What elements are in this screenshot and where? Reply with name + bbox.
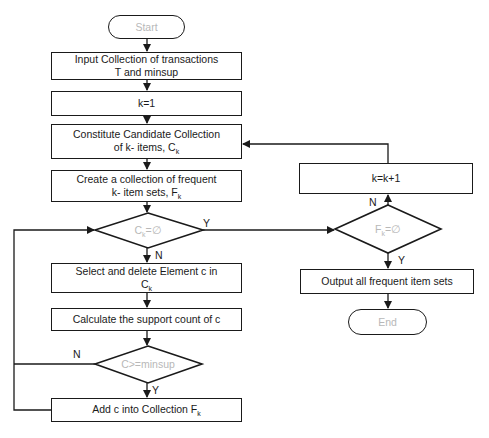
- init-k-process: k=1: [51, 91, 242, 116]
- end-terminal: End: [348, 309, 427, 335]
- calc-process: Calculate the support count of c: [51, 308, 242, 331]
- create-line2: k- item sets, F: [112, 186, 178, 198]
- create-line1: Create a collection of frequent: [76, 173, 216, 186]
- select-process: Select and delete Element c in Ck: [51, 263, 242, 293]
- init-k-label: k=1: [138, 97, 155, 110]
- create-process: Create a collection of frequent k- item …: [51, 170, 242, 202]
- fk-empty-text: Fk=∅: [375, 223, 401, 235]
- ck-empty-no-label: N: [155, 249, 163, 261]
- output-label: Output all frequent item sets: [321, 275, 452, 288]
- create-sub: k: [178, 193, 182, 200]
- constitute-sub: k: [176, 148, 180, 155]
- minsup-no-label: N: [73, 348, 81, 360]
- select-line1: Select and delete Element c in: [76, 265, 218, 278]
- fk-empty-no-label: N: [369, 196, 377, 208]
- input-line2: T and minsup: [115, 66, 178, 79]
- constitute-process: Constitute Candidate Collection of k- it…: [51, 124, 242, 159]
- ck-empty-text: Ck=∅: [134, 224, 161, 236]
- inc-k-process: k=k+1: [299, 163, 473, 194]
- constitute-line1: Constitute Candidate Collection: [73, 128, 220, 141]
- flowchart-canvas: Start Input Collection of transactions T…: [0, 0, 489, 438]
- end-label: End: [378, 316, 397, 328]
- start-label: Start: [135, 21, 157, 33]
- calc-label: Calculate the support count of c: [73, 313, 221, 326]
- ck-empty-yes-label: Y: [203, 217, 210, 229]
- select-line2: C: [141, 278, 149, 290]
- inc-k-label: k=k+1: [372, 172, 401, 185]
- start-terminal: Start: [108, 15, 185, 39]
- add-sub: k: [197, 410, 201, 417]
- fk-empty-yes-label: Y: [398, 254, 405, 266]
- add-label: Add c into Collection F: [92, 403, 197, 415]
- input-line1: Input Collection of transactions: [75, 53, 219, 66]
- output-process: Output all frequent item sets: [300, 269, 474, 294]
- input-process: Input Collection of transactions T and m…: [51, 52, 242, 80]
- minsup-yes-label: Y: [152, 384, 159, 396]
- add-process: Add c into Collection Fk: [51, 398, 242, 422]
- constitute-line2: of k- items, C: [114, 141, 176, 153]
- select-sub: k: [149, 285, 153, 292]
- minsup-text: C>=minsup: [121, 358, 175, 370]
